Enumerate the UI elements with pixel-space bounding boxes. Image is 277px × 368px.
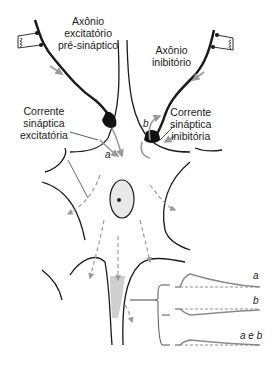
label-line: sináptica	[20, 117, 68, 129]
trace-b	[175, 309, 260, 315]
label-line: Axônio	[152, 44, 191, 56]
inhibitory-axon-label: Axônio inibitório	[152, 44, 191, 68]
trace-a-and-b-label: a e b	[240, 330, 262, 341]
axon-initial-segment	[110, 276, 125, 318]
stimulating-electrode-icon	[211, 33, 233, 50]
trace-a	[175, 274, 260, 287]
label-line: Corrente	[20, 105, 68, 117]
inhibitory-current-label: Corrente sináptica inibitória	[170, 106, 211, 142]
label-line: inibitória	[170, 130, 211, 142]
trace-a-label: a	[253, 270, 259, 281]
label-line: inibitório	[152, 56, 191, 68]
label-line: sináptica	[170, 118, 211, 130]
excitatory-current-label: Corrente sináptica excitatória	[20, 105, 68, 141]
neuron-synaptic-integration-diagram	[0, 0, 277, 368]
trace-b-label: b	[253, 295, 259, 306]
label-line: pré-sináptico	[58, 39, 118, 51]
label-line: excitatória	[20, 129, 68, 141]
excitatory-axon-label: Axônio excitatório pré-sináptico	[58, 15, 118, 51]
label-line: excitatório	[58, 27, 118, 39]
label-line: Axônio	[58, 15, 118, 27]
label-line: Corrente	[170, 106, 211, 118]
site-a-marker: a	[105, 149, 111, 160]
site-b-marker: b	[143, 118, 149, 129]
nucleus	[110, 180, 134, 218]
